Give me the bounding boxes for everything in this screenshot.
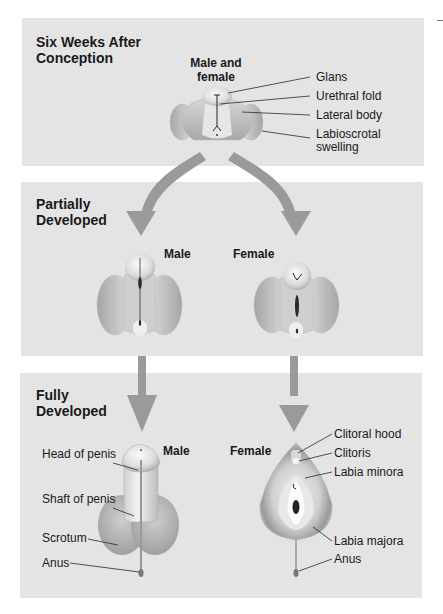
- label-urethral-fold: Urethral fold: [316, 90, 381, 103]
- label-shaft-of-penis: Shaft of penis: [42, 493, 115, 506]
- partial-male-figure: [97, 253, 182, 336]
- label-labioscrotal-swelling: Labioscrotal swelling: [316, 128, 381, 154]
- stage-title-partially-developed: Partially Developed: [36, 196, 107, 228]
- six-weeks-figure: [170, 86, 263, 140]
- stage-title-fully-developed: Fully Developed: [36, 387, 107, 419]
- label-head-of-penis: Head of penis: [42, 448, 116, 461]
- label-clitoral-hood: Clitoral hood: [334, 428, 401, 441]
- label-scrotum: Scrotum: [42, 532, 87, 545]
- full-male-figure: [98, 444, 179, 577]
- partial-female-figure: [254, 262, 339, 338]
- label-clitoris: Clitoris: [334, 447, 371, 460]
- label-anus-male: Anus: [42, 557, 69, 570]
- subject-label-partial-male: Male: [164, 247, 191, 261]
- stage-title-six-weeks: Six Weeks After Conception: [36, 34, 141, 66]
- label-labia-majora: Labia majora: [334, 535, 403, 548]
- full-female-figure: [260, 443, 332, 577]
- arrow-to-partial-female: [228, 152, 311, 236]
- subject-label-full-male: Male: [163, 444, 190, 458]
- arrow-to-full-female: [279, 356, 309, 432]
- arrow-to-partial-male: [126, 152, 206, 236]
- subject-label-male-and-female: Male and female: [186, 56, 246, 84]
- subject-label-partial-female: Female: [233, 247, 274, 261]
- label-lateral-body: Lateral body: [316, 109, 382, 122]
- label-glans: Glans: [316, 71, 347, 84]
- label-anus-female: Anus: [334, 553, 361, 566]
- label-labia-minora: Labia minora: [334, 466, 403, 479]
- subject-label-full-female: Female: [230, 444, 271, 458]
- arrow-to-full-male: [127, 356, 157, 432]
